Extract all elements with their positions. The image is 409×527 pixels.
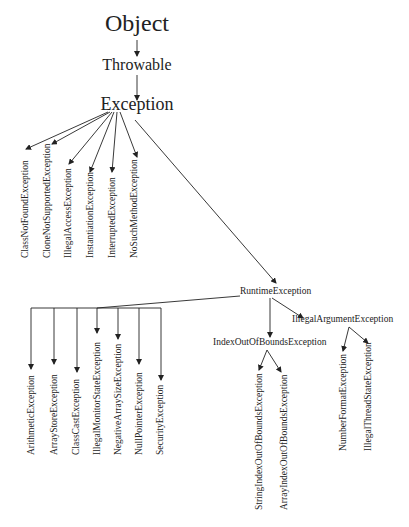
- node-illegalthreadstate: IllegalThreadStateException: [363, 342, 373, 451]
- illegalarg-children: NumberFormatException IllegalThreadState…: [338, 342, 373, 451]
- node-instantiation: InstantiationException: [85, 172, 95, 258]
- exception-children: ClassNotFoundException CloneNotSupported…: [20, 143, 139, 258]
- node-illegalaccess: IllegalAccessException: [63, 168, 73, 258]
- node-negativearraysize: NegativeArraySizeException: [113, 343, 123, 455]
- node-classnotfound: ClassNotFoundException: [20, 160, 30, 258]
- node-classcast: ClassCastException: [71, 379, 81, 455]
- indexoob-children: StringIndexOutOfBoundsException ArrayInd…: [254, 373, 289, 510]
- node-numberformat: NumberFormatException: [338, 354, 348, 451]
- hierarchy-diagram: Object Throwable Exception ClassNotFound…: [0, 0, 409, 527]
- node-clonenotsupported: CloneNotSupportedException: [42, 143, 52, 258]
- node-interrupted: InterruptedException: [107, 177, 117, 258]
- indexoob-arrows: [259, 350, 281, 372]
- node-object: Object: [105, 10, 169, 36]
- node-nosuchmethod: NoSuchMethodException: [129, 159, 139, 258]
- node-arrayindexoob: ArrayIndexOutOfBoundsException: [279, 374, 289, 510]
- runtime-branch-lines: [31, 296, 240, 380]
- node-arraystore: ArrayStoreException: [49, 374, 59, 455]
- node-arithmetic: ArithmeticException: [26, 375, 36, 455]
- node-indexoutofbounds: IndexOutOfBoundsException: [213, 337, 327, 347]
- node-exception: Exception: [101, 94, 174, 114]
- runtime-children: ArithmeticException ArrayStoreException …: [26, 342, 165, 455]
- node-illegalargument: IllegalArgumentException: [292, 314, 393, 324]
- node-illegalmonitorstate: IllegalMonitorStateException: [92, 342, 102, 455]
- node-nullpointer: NullPointerException: [134, 372, 144, 455]
- node-stringindexoob: StringIndexOutOfBoundsException: [254, 373, 264, 510]
- node-security: SecurityException: [155, 385, 165, 455]
- node-throwable: Throwable: [102, 56, 171, 73]
- node-runtime: RuntimeException: [240, 286, 311, 296]
